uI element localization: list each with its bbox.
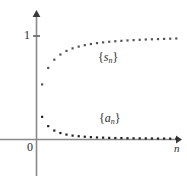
- data-point: [139, 39, 141, 41]
- brace-close-sn: }: [112, 50, 118, 64]
- data-point: [78, 135, 80, 137]
- y-axis-tick-label-one: 1: [24, 29, 30, 41]
- data-point: [59, 53, 61, 55]
- data-point: [157, 137, 159, 139]
- data-point: [126, 39, 128, 41]
- data-point: [175, 37, 177, 39]
- data-point: [133, 39, 135, 41]
- origin-label: 0: [27, 141, 33, 153]
- subscript-n-a: n: [111, 117, 115, 126]
- data-point: [102, 137, 104, 139]
- data-point: [163, 38, 165, 40]
- data-point: [47, 67, 49, 69]
- data-point: [78, 46, 80, 48]
- data-point: [169, 38, 171, 40]
- series-label-partial-sums: {sn}: [98, 51, 118, 63]
- data-point: [59, 132, 61, 134]
- data-point: [114, 40, 116, 42]
- subscript-n-s: n: [108, 56, 112, 65]
- data-point: [65, 50, 67, 52]
- sequence-convergence-figure: 1 0 n {sn} {an}: [0, 0, 187, 176]
- data-point: [139, 137, 141, 139]
- data-point: [145, 38, 147, 40]
- var-a: a: [105, 111, 111, 125]
- data-point: [145, 137, 147, 139]
- data-point: [41, 116, 43, 118]
- data-point: [108, 137, 110, 139]
- data-point: [72, 47, 74, 49]
- data-point: [175, 138, 177, 140]
- data-point: [151, 137, 153, 139]
- data-point: [169, 138, 171, 140]
- x-axis-label: n: [174, 143, 180, 154]
- data-point: [53, 129, 55, 131]
- series-label-terms: {an}: [99, 112, 121, 124]
- data-point: [84, 136, 86, 138]
- data-point: [120, 40, 122, 42]
- data-point: [96, 42, 98, 44]
- y-axis: [33, 10, 41, 176]
- data-point: [72, 135, 74, 137]
- data-point: [157, 38, 159, 40]
- data-point: [114, 137, 116, 139]
- data-point: [102, 41, 104, 43]
- data-point: [41, 83, 43, 85]
- brace-close-an: }: [115, 111, 121, 125]
- data-point: [133, 137, 135, 139]
- data-point: [126, 137, 128, 139]
- data-point: [120, 137, 122, 139]
- data-point: [90, 136, 92, 138]
- data-point: [163, 137, 165, 139]
- data-point: [151, 38, 153, 40]
- data-point: [84, 44, 86, 46]
- data-point: [90, 43, 92, 45]
- data-point: [96, 136, 98, 138]
- data-point: [65, 133, 67, 135]
- data-point: [47, 125, 49, 127]
- data-point: [108, 41, 110, 43]
- data-point: [53, 59, 55, 61]
